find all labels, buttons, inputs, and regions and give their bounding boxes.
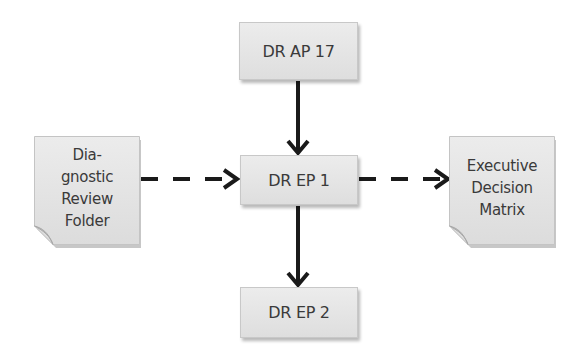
node-dr-ep-2[interactable]: DR EP 2 — [240, 287, 358, 338]
edge-ep1-to-matrix — [359, 170, 448, 188]
edge-ap17-to-ep1 — [288, 81, 308, 153]
node-diagnostic-review-folder[interactable]: Dia- gnostic Review Folder — [34, 136, 140, 245]
edge-folder-to-ep1 — [141, 170, 237, 188]
diagram-canvas: DR AP 17 DR EP 1 DR EP 2 Dia- gnostic Re… — [0, 0, 587, 356]
node-dr-ap-17[interactable]: DR AP 17 — [239, 22, 358, 80]
node-label: DR EP 2 — [268, 303, 329, 322]
node-label: DR AP 17 — [262, 42, 334, 61]
node-executive-decision-matrix[interactable]: Executive Decision Matrix — [449, 136, 555, 245]
edge-ep1-to-ep2 — [288, 206, 308, 285]
node-label: Dia- gnostic Review Folder — [34, 144, 140, 232]
node-label: Executive Decision Matrix — [449, 155, 555, 221]
node-dr-ep-1[interactable]: DR EP 1 — [240, 155, 358, 205]
node-label: DR EP 1 — [268, 171, 329, 190]
